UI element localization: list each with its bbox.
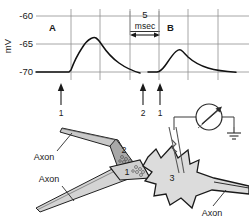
- neuron-diagram: 2 1 3: [34, 104, 249, 218]
- scale-bar-unit: msec: [135, 21, 156, 31]
- y-axis-ticks: -60 -65 -70: [19, 10, 33, 77]
- scale-bar-arrow-left: [130, 32, 136, 37]
- terminal-2-label: 2: [121, 145, 126, 155]
- axon-leader-line-upper: [57, 133, 72, 151]
- y-tick-label-65: -65: [19, 38, 33, 49]
- stimulus-arrow-label-2: 2: [141, 108, 146, 118]
- axon-label-right: Axon: [202, 208, 223, 218]
- axon-label-right-group: Axon: [202, 190, 226, 218]
- stimulus-arrow-2: 2: [140, 83, 146, 118]
- neuroscience-figure: -60 -65 -70 mV A B 5 msec: [0, 0, 249, 222]
- axon-label-upper-group: Axon: [34, 133, 72, 162]
- stimulus-arrow-1-second: 1: [157, 83, 163, 118]
- y-tick-label-70: -70: [19, 66, 33, 77]
- axon-label-upper: Axon: [34, 152, 55, 162]
- soma-shape: [143, 146, 249, 208]
- figure-container: -60 -65 -70 mV A B 5 msec: [0, 0, 249, 222]
- stimulus-arrow-label-1b: 1: [158, 108, 163, 118]
- ground-icon: [227, 127, 241, 139]
- arrow-head-icon: [157, 83, 163, 91]
- axon-leader-line-right: [213, 190, 226, 206]
- stimulus-arrow-label-1a: 1: [59, 108, 64, 118]
- stimulus-arrow-1-first: 1: [58, 83, 64, 118]
- arrow-head-icon: [58, 83, 64, 91]
- scale-bar: 5 msec: [130, 9, 160, 38]
- y-tick-label-60: -60: [19, 10, 33, 21]
- arrow-head-icon: [140, 83, 146, 91]
- scale-bar-value: 5: [142, 9, 147, 20]
- terminal-1-label: 1: [124, 167, 129, 177]
- panel-label-a: A: [49, 22, 56, 33]
- meter-icon: [196, 104, 222, 130]
- trace-b: [148, 50, 236, 72]
- trace-a: [36, 38, 140, 73]
- recording-panel: -60 -65 -70 mV A B 5 msec: [2, 9, 249, 118]
- soma-label: 3: [169, 173, 174, 183]
- y-axis-unit-label: mV: [2, 38, 13, 53]
- panel-label-b: B: [167, 22, 174, 33]
- axon-label-lower: Axon: [39, 174, 60, 184]
